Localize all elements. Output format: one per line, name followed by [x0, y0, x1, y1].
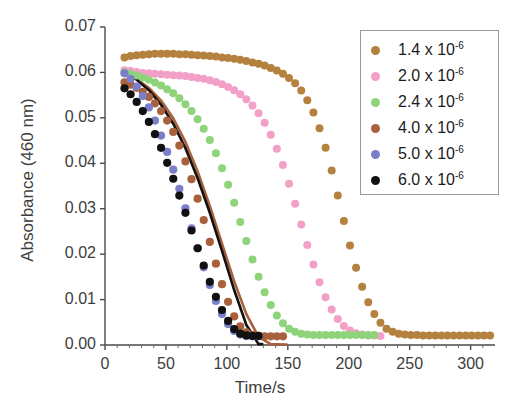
data-point — [169, 166, 177, 174]
data-point — [261, 288, 269, 296]
data-point — [267, 131, 275, 139]
data-point — [181, 209, 189, 217]
data-point — [120, 69, 128, 77]
data-point — [181, 157, 189, 165]
legend-item-mantissa: 6.0 x 10 — [398, 172, 455, 189]
legend-item-exponent: -6 — [455, 144, 464, 155]
data-point — [200, 261, 208, 269]
legend-item-exponent: -6 — [455, 118, 464, 129]
data-point — [261, 119, 269, 127]
legend-marker-icon — [371, 46, 380, 55]
data-point — [169, 128, 177, 136]
data-point — [322, 293, 330, 301]
legend-item-mantissa: 5.0 x 10 — [398, 146, 455, 163]
x-tick-label-4: 200 — [324, 355, 374, 373]
legend-item-1[interactable]: 2.0 x 10-6 — [361, 63, 498, 89]
x-tick-label-0: 0 — [80, 355, 130, 373]
data-point — [206, 238, 214, 246]
data-point — [126, 75, 134, 83]
series-4.0-x-10 — [120, 78, 287, 340]
data-point — [370, 310, 378, 318]
data-point — [157, 144, 165, 152]
data-point — [212, 149, 220, 157]
data-point — [316, 278, 324, 286]
x-axis-title-text: Time/s — [235, 378, 285, 397]
legend-item-5[interactable]: 6.0 x 10-6 — [361, 167, 498, 193]
legend-item-4[interactable]: 5.0 x 10-6 — [361, 141, 498, 167]
data-point — [248, 256, 256, 264]
data-point — [316, 124, 324, 132]
data-point — [175, 191, 183, 199]
data-point — [218, 280, 226, 288]
data-point — [175, 94, 183, 102]
data-point — [187, 226, 195, 234]
data-point — [133, 98, 141, 106]
data-point — [230, 199, 238, 207]
data-point — [212, 260, 220, 268]
data-point — [200, 216, 208, 224]
legend-item-2[interactable]: 2.4 x 10-6 — [361, 89, 498, 115]
data-point — [309, 108, 317, 116]
data-point — [376, 319, 384, 327]
data-point — [291, 79, 299, 87]
legend-marker-icon — [371, 124, 380, 133]
data-point — [145, 118, 153, 126]
legend-item-mantissa: 4.0 x 10 — [398, 120, 455, 137]
data-point — [273, 311, 281, 319]
data-point — [163, 159, 171, 167]
legend-item-exponent: -6 — [455, 92, 464, 103]
legend-item-0[interactable]: 1.4 x 10-6 — [361, 37, 498, 63]
data-point — [206, 136, 214, 144]
data-point — [187, 175, 195, 183]
y-axis-title: Absorbance (460 nm) — [18, 70, 38, 290]
data-point — [255, 273, 263, 281]
data-point — [200, 125, 208, 133]
legend-item-exponent: -6 — [455, 170, 464, 181]
data-point — [291, 200, 299, 208]
data-point — [303, 96, 311, 104]
data-point — [139, 92, 147, 100]
data-point — [224, 317, 232, 325]
legend-marker-icon — [371, 150, 380, 159]
legend-item-label: 5.0 x 10-6 — [398, 144, 464, 163]
data-point — [175, 141, 183, 149]
data-point — [188, 107, 196, 115]
data-point — [352, 264, 360, 272]
y-tick-label-1: 0.01 — [20, 290, 96, 308]
data-point — [206, 278, 214, 286]
data-point — [218, 164, 226, 172]
x-axis-title: Time/s — [190, 378, 330, 398]
legend-item-label: 6.0 x 10-6 — [398, 170, 464, 189]
data-point — [151, 130, 159, 138]
data-point — [139, 107, 147, 115]
y-tick-label-0: 0.00 — [20, 335, 96, 353]
y-tick-label-7: 0.07 — [20, 17, 96, 35]
data-point — [181, 100, 189, 108]
data-point — [120, 84, 128, 92]
data-point — [358, 283, 366, 291]
data-point — [328, 167, 336, 175]
data-point — [309, 261, 317, 269]
legend-item-mantissa: 1.4 x 10 — [398, 42, 455, 59]
data-point — [224, 181, 232, 189]
data-point — [255, 109, 263, 117]
data-point — [194, 195, 202, 203]
legend-item-exponent: -6 — [455, 40, 464, 51]
legend-item-3[interactable]: 4.0 x 10-6 — [361, 115, 498, 141]
data-point — [322, 144, 330, 152]
data-point — [334, 192, 342, 200]
data-point — [236, 218, 244, 226]
data-point — [242, 237, 250, 245]
legend-marker-icon — [371, 98, 380, 107]
data-point — [273, 145, 281, 153]
legend: 1.4 x 10-62.0 x 10-62.4 x 10-64.0 x 10-6… — [360, 30, 499, 195]
legend-marker-icon — [371, 72, 380, 81]
legend-marker-icon — [371, 176, 380, 185]
legend-item-mantissa: 2.4 x 10 — [398, 94, 455, 111]
data-point — [340, 217, 348, 225]
data-point — [279, 332, 287, 340]
data-point — [242, 95, 250, 103]
data-point — [364, 298, 372, 306]
data-point — [303, 241, 311, 249]
data-point — [169, 175, 177, 183]
